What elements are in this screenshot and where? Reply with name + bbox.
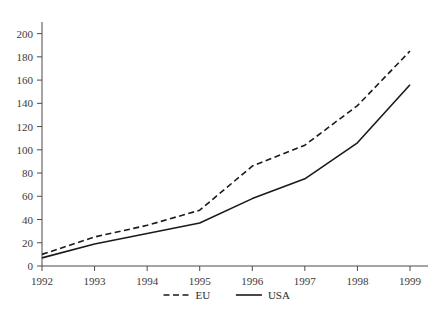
y-axis-ticks [37, 34, 42, 266]
series-line-usa [42, 85, 410, 258]
y-tick-label: 40 [22, 214, 34, 226]
legend-label-usa: USA [268, 289, 290, 301]
chart-container: 020406080100120140160180200 199219931994… [0, 0, 443, 317]
y-tick-label: 140 [17, 97, 34, 109]
y-tick-label: 160 [17, 74, 34, 86]
y-tick-label: 0 [28, 260, 34, 272]
y-tick-label: 120 [17, 121, 34, 133]
y-tick-label: 80 [22, 167, 34, 179]
x-axis-tick-labels: 19921993199419951996199719981999 [31, 275, 422, 287]
legend-label-eu: EU [196, 289, 211, 301]
y-tick-label: 60 [22, 190, 34, 202]
x-tick-label: 1992 [31, 275, 53, 287]
x-tick-label: 1998 [346, 275, 369, 287]
x-axis-ticks [42, 266, 410, 271]
data-series-group [42, 51, 410, 258]
x-tick-label: 1995 [189, 275, 212, 287]
chart-legend: EUUSA [164, 289, 290, 301]
x-tick-label: 1997 [294, 275, 317, 287]
y-tick-label: 20 [22, 237, 34, 249]
x-tick-label: 1996 [241, 275, 264, 287]
y-tick-label: 100 [17, 144, 34, 156]
x-tick-label: 1994 [136, 275, 159, 287]
x-tick-label: 1999 [399, 275, 422, 287]
y-tick-label: 180 [17, 51, 34, 63]
axes-group [42, 22, 428, 266]
x-tick-label: 1993 [84, 275, 107, 287]
series-line-eu [42, 51, 410, 254]
line-chart-svg: 020406080100120140160180200 199219931994… [0, 0, 443, 317]
y-tick-label: 200 [17, 28, 34, 40]
y-axis-tick-labels: 020406080100120140160180200 [17, 28, 34, 272]
